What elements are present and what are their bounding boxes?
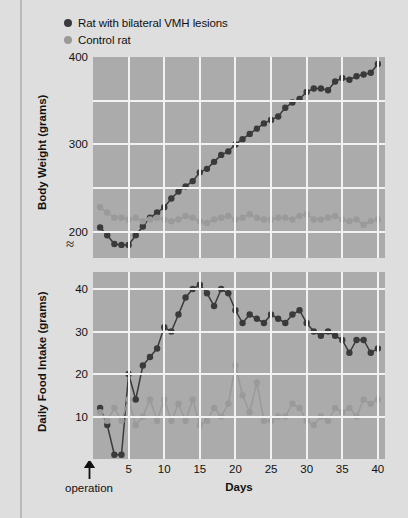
data-point-marker	[104, 232, 110, 238]
data-point-marker	[154, 345, 160, 351]
y-axis-title-body-weight: Body Weight (grams)	[36, 95, 48, 210]
y-axis-tick-label: 20	[48, 368, 88, 380]
data-point-marker	[368, 350, 374, 356]
gridline-vertical	[341, 272, 343, 459]
data-point-marker	[239, 215, 245, 221]
data-point-marker	[204, 418, 210, 424]
legend-item-control: Control rat	[64, 31, 364, 48]
data-point-marker	[239, 136, 245, 142]
data-point-marker	[311, 216, 317, 222]
data-point-marker	[282, 320, 288, 326]
data-point-marker	[147, 216, 153, 222]
data-point-marker	[254, 316, 260, 322]
data-point-marker	[353, 337, 359, 343]
data-point-marker	[225, 213, 231, 219]
data-point-marker	[104, 209, 110, 215]
data-point-marker	[318, 333, 324, 339]
data-point-marker	[368, 401, 374, 407]
data-point-marker	[182, 418, 188, 424]
x-axis-tick-label: 5	[125, 463, 131, 475]
data-point-marker	[204, 220, 210, 226]
data-point-marker	[175, 311, 181, 317]
data-point-marker	[325, 215, 331, 221]
data-point-marker	[211, 405, 217, 411]
axis-break-icon: ≈	[66, 236, 74, 253]
figure-container: Rat with bilateral VMH lesions Control r…	[0, 0, 408, 518]
data-point-marker	[346, 77, 352, 83]
data-point-marker	[254, 215, 260, 221]
data-point-marker	[246, 311, 252, 317]
data-point-marker	[211, 216, 217, 222]
data-point-marker	[133, 396, 139, 402]
y-axis-tick-label: 40	[48, 283, 88, 295]
data-point-marker	[246, 131, 252, 137]
data-point-marker	[175, 188, 181, 194]
chart-legend: Rat with bilateral VMH lesions Control r…	[64, 14, 364, 48]
data-point-marker	[225, 290, 231, 296]
data-point-marker	[211, 159, 217, 165]
data-point-marker	[360, 71, 366, 77]
data-point-marker	[346, 405, 352, 411]
y-axis-tick-label: 10	[48, 411, 88, 423]
gridline-vertical	[270, 272, 272, 459]
data-point-marker	[97, 224, 103, 230]
data-point-marker	[225, 401, 231, 407]
gridline-vertical	[306, 272, 308, 459]
data-point-marker	[182, 213, 188, 219]
page-edge-rule	[20, 0, 22, 518]
data-point-marker	[353, 216, 359, 222]
operation-annotation-label: operation	[65, 482, 113, 494]
gridline-vertical	[128, 272, 130, 459]
gridline-vertical	[128, 57, 130, 258]
x-axis-tick-label: 25	[265, 463, 278, 475]
data-point-marker	[133, 215, 139, 221]
data-point-marker	[311, 422, 317, 428]
data-point-marker	[190, 178, 196, 184]
x-axis-title: Days	[225, 481, 253, 493]
data-point-marker	[275, 316, 281, 322]
series-line	[100, 285, 378, 455]
data-point-marker	[147, 396, 153, 402]
data-point-marker	[111, 405, 117, 411]
gridline-vertical	[234, 272, 236, 459]
legend-item-lesion: Rat with bilateral VMH lesions	[64, 14, 364, 31]
data-point-marker	[360, 222, 366, 228]
data-point-marker	[154, 215, 160, 221]
data-point-marker	[204, 166, 210, 172]
y-axis-tick-labels: 20030040010203040	[44, 0, 88, 518]
data-point-marker	[282, 104, 288, 110]
data-point-marker	[332, 333, 338, 339]
data-point-marker	[275, 215, 281, 221]
data-point-marker	[332, 78, 338, 84]
data-point-marker	[218, 152, 224, 158]
data-point-marker	[168, 218, 174, 224]
x-axis-tick-label: 40	[371, 463, 384, 475]
chart-panel-body-weight	[93, 57, 385, 258]
data-point-marker	[133, 422, 139, 428]
data-point-marker	[275, 113, 281, 119]
gridline-vertical	[341, 57, 343, 258]
x-axis-tick-label: 20	[229, 463, 242, 475]
gridline-vertical	[377, 57, 379, 258]
data-point-marker	[246, 211, 252, 217]
data-point-marker	[111, 215, 117, 221]
data-point-marker	[168, 195, 174, 201]
x-axis-tick-label: 10	[158, 463, 171, 475]
data-point-marker	[246, 409, 252, 415]
data-point-marker	[254, 379, 260, 385]
data-point-marker	[261, 216, 267, 222]
y-axis-tick-label: 30	[48, 326, 88, 338]
data-point-marker	[218, 215, 224, 221]
data-point-marker	[289, 311, 295, 317]
data-point-marker	[289, 401, 295, 407]
data-point-marker	[154, 418, 160, 424]
data-point-marker	[360, 396, 366, 402]
data-point-marker	[296, 405, 302, 411]
data-point-marker	[282, 215, 288, 221]
gridline-vertical	[199, 272, 201, 459]
data-point-marker	[104, 418, 110, 424]
y-axis-tick-label: 400	[48, 51, 88, 63]
data-point-marker	[346, 350, 352, 356]
data-point-marker	[97, 204, 103, 210]
x-axis-tick-label: 15	[193, 463, 206, 475]
